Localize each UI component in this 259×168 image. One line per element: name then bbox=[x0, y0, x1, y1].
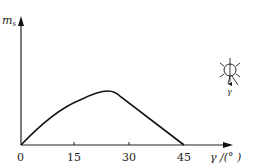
y-axis-arrow-icon bbox=[18, 16, 24, 26]
inset-diagram-icon: γ bbox=[220, 58, 240, 96]
x-tick-15: 15 bbox=[67, 151, 81, 164]
x-tick-30: 30 bbox=[122, 151, 136, 164]
y-axis bbox=[18, 16, 24, 145]
chart-figure: ms 0 15 30 45 γ /(° ) γ bbox=[0, 0, 259, 168]
x-tick-45: 45 bbox=[177, 151, 191, 164]
x-axis-arrow-icon bbox=[223, 142, 233, 148]
data-curve bbox=[21, 91, 184, 145]
x-axis bbox=[21, 142, 233, 148]
x-tick-0: 0 bbox=[17, 151, 24, 164]
inset-angle-label: γ bbox=[227, 87, 232, 96]
x-axis-label: γ /(° ) bbox=[210, 151, 241, 164]
y-axis-label: ms bbox=[2, 14, 16, 28]
